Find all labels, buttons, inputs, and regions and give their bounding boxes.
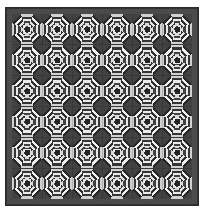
ring-edge-segment — [141, 42, 154, 44]
ring-edge-segment — [143, 21, 150, 23]
ring-edge-segment — [84, 65, 89, 67]
quilt-block — [102, 45, 132, 75]
ring-edge-segment — [143, 36, 150, 38]
ring-edge-segment — [134, 147, 136, 158]
ring-edge-segment — [54, 23, 59, 25]
ring-edge-segment — [83, 128, 90, 130]
ring-edge-segment — [33, 57, 35, 64]
ring-edge-segment — [126, 25, 128, 34]
ring-edge-segment — [76, 148, 78, 157]
quilt-block — [72, 169, 102, 199]
block-center — [115, 27, 120, 32]
quilt-block — [162, 169, 192, 199]
ring-edge-segment — [36, 117, 38, 126]
ring-edge-segment — [171, 181, 173, 186]
ring-edge-segment — [173, 111, 182, 113]
quilt-block — [12, 14, 42, 44]
ring-edge-segment — [23, 130, 32, 132]
ring-edge-segment — [24, 177, 29, 179]
ring-edge-segment — [21, 42, 34, 44]
ring-edge-segment — [68, 117, 70, 128]
ring-edge-segment — [106, 117, 108, 126]
ring-edge-segment — [52, 163, 63, 165]
ring-edge-segment — [51, 42, 64, 44]
block-center — [55, 27, 60, 32]
ring-edge-segment — [156, 56, 158, 65]
block-center — [25, 181, 30, 186]
block-center — [145, 119, 150, 124]
ring-edge-segment — [158, 24, 160, 35]
quilt-block — [72, 107, 102, 137]
ring-edge-segment — [78, 149, 80, 156]
ring-edge-segment — [141, 119, 143, 124]
ring-edge-segment — [134, 178, 136, 189]
ring-edge-segment — [51, 196, 64, 198]
quilt-image — [0, 0, 208, 218]
ring-edge-segment — [76, 179, 78, 188]
ring-edge-segment — [36, 179, 38, 188]
ring-edge-segment — [81, 169, 94, 171]
ring-edge-segment — [183, 149, 185, 156]
ring-edge-segment — [16, 87, 18, 96]
ring-edge-segment — [21, 150, 23, 155]
ring-edge-segment — [108, 180, 110, 187]
ring-edge-segment — [113, 100, 122, 102]
ring-edge-segment — [168, 87, 170, 94]
ring-edge-segment — [84, 157, 89, 159]
ring-edge-segment — [173, 21, 180, 23]
ring-edge-segment — [78, 87, 80, 94]
ring-edge-segment — [53, 144, 60, 146]
ring-edge-segment — [38, 86, 40, 97]
block-center — [85, 150, 90, 155]
ring-edge-segment — [98, 55, 100, 66]
ring-edge-segment — [21, 119, 23, 124]
ring-edge-segment — [166, 87, 168, 96]
ring-edge-segment — [141, 45, 154, 47]
ring-edge-segment — [153, 149, 155, 156]
ring-edge-segment — [82, 71, 93, 73]
ring-edge-segment — [14, 147, 16, 158]
ring-edge-segment — [68, 147, 70, 158]
ring-edge-segment — [83, 173, 92, 175]
ring-edge-segment — [36, 148, 38, 157]
ring-edge-segment — [31, 181, 33, 186]
block-center — [145, 181, 150, 186]
ring-edge-segment — [171, 196, 184, 198]
block-center — [55, 58, 60, 63]
ring-edge-segment — [36, 56, 38, 65]
ring-edge-segment — [114, 157, 119, 159]
block-center — [145, 150, 150, 155]
ring-edge-segment — [151, 119, 153, 124]
ring-edge-segment — [54, 115, 59, 117]
ring-edge-segment — [172, 163, 183, 165]
ring-edge-segment — [186, 179, 188, 188]
ring-edge-segment — [113, 175, 120, 177]
ring-edge-segment — [121, 119, 123, 124]
ring-edge-segment — [138, 26, 140, 33]
ring-edge-segment — [188, 117, 190, 128]
ring-edge-segment — [171, 58, 173, 63]
ring-edge-segment — [126, 87, 128, 96]
ring-edge-segment — [106, 87, 108, 96]
ring-edge-segment — [111, 169, 124, 171]
ring-edge-segment — [174, 54, 179, 56]
ring-edge-segment — [121, 88, 123, 93]
ring-edge-segment — [141, 166, 154, 168]
ring-edge-segment — [112, 194, 123, 196]
ring-edge-segment — [18, 57, 20, 64]
ring-edge-segment — [142, 40, 153, 42]
ring-edge-segment — [171, 119, 173, 124]
ring-edge-segment — [63, 180, 65, 187]
ring-edge-segment — [142, 17, 153, 19]
ring-edge-segment — [23, 98, 30, 100]
ring-edge-segment — [23, 190, 30, 192]
ring-edge-segment — [121, 181, 123, 186]
ring-edge-segment — [31, 150, 33, 155]
ring-edge-segment — [134, 117, 136, 128]
ring-edge-segment — [83, 113, 90, 115]
ring-edge-segment — [52, 140, 63, 142]
ring-edge-segment — [51, 119, 53, 124]
block-center — [145, 27, 150, 32]
ring-edge-segment — [81, 73, 94, 75]
ring-edge-segment — [16, 56, 18, 65]
